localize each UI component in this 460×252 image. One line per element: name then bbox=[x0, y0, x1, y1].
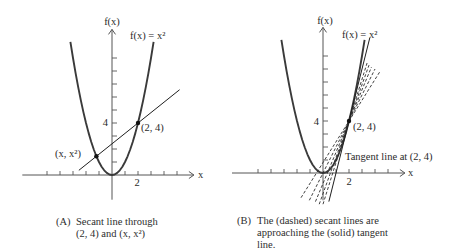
x-axis-label: x bbox=[198, 169, 204, 180]
x-tick-label: 2 bbox=[134, 177, 139, 188]
y-axis-label: f(x) bbox=[104, 16, 120, 28]
function-label: f(x) = x² bbox=[130, 30, 165, 42]
secant-line bbox=[79, 90, 180, 171]
y-axis-label: f(x) bbox=[317, 15, 333, 27]
y-tick-label: 4 bbox=[103, 117, 109, 128]
caption-line: The (dashed) secant lines are bbox=[257, 215, 388, 227]
panel-a: f(x) f(x) = x² 4 2 x (2, 4) (x, x²) bbox=[22, 16, 204, 200]
panel-b: f(x) f(x) = x² 4 2 x (2, 4) Tangent line… bbox=[232, 15, 433, 204]
point-label: (2, 4) bbox=[141, 122, 164, 134]
caption-text: Secant line through (2, 4) and (x, x²) bbox=[76, 216, 158, 240]
secant-line-dashed bbox=[301, 71, 380, 198]
point-marker bbox=[347, 119, 351, 123]
caption-text: The (dashed) secant lines are approachin… bbox=[257, 215, 388, 251]
caption-marker: (A) bbox=[56, 216, 71, 228]
tangent-annotation: Tangent line at (2, 4) bbox=[345, 151, 433, 163]
plot-A bbox=[22, 29, 194, 199]
caption-line: approaching the (solid) tangent bbox=[257, 227, 388, 239]
secant-line-dashed bbox=[309, 69, 375, 200]
function-label: f(x) = x² bbox=[342, 29, 377, 41]
y-tick-label: 4 bbox=[314, 116, 320, 127]
secant-tangent-figure: f(x) f(x) = x² 4 2 x (2, 4) (x, x²) f(x)… bbox=[0, 0, 460, 252]
caption-line: Secant line through bbox=[76, 216, 158, 228]
x-tick-label: 2 bbox=[346, 176, 351, 187]
caption-line: line. bbox=[257, 239, 388, 251]
point-marker bbox=[94, 154, 98, 158]
secant-line-dashed bbox=[319, 65, 369, 204]
point-label: (x, x²) bbox=[55, 148, 81, 160]
caption-line: (2, 4) and (x, x²) bbox=[76, 228, 158, 240]
caption-marker: (B) bbox=[237, 215, 251, 227]
point-marker bbox=[136, 121, 140, 125]
figure-canvas: f(x) f(x) = x² 4 2 x (2, 4) (x, x²) f(x)… bbox=[0, 0, 460, 252]
point-label: (2, 4) bbox=[353, 121, 376, 133]
x-axis-label: x bbox=[408, 167, 414, 178]
